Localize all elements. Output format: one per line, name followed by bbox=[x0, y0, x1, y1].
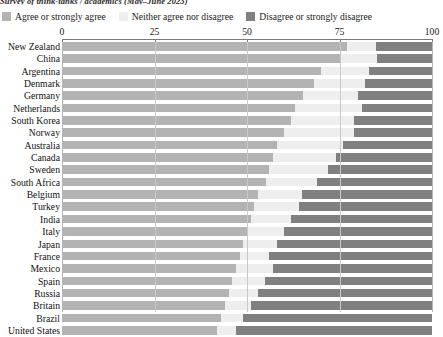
bar-row[interactable]: Mexico bbox=[0, 263, 443, 275]
bar-segment bbox=[284, 227, 432, 236]
gridline-100 bbox=[432, 41, 433, 312]
bar-row-label: South Africa bbox=[0, 177, 60, 189]
bar-rows: New ZealandChinaArgentinaDenmarkGermanyN… bbox=[0, 41, 443, 337]
bar-row-label: Japan bbox=[0, 239, 60, 251]
axis-tick-label-25: 25 bbox=[150, 26, 160, 38]
bar-segment bbox=[62, 190, 258, 199]
bar-segment bbox=[299, 202, 432, 211]
bar-segment bbox=[365, 79, 432, 88]
bar-segment bbox=[62, 277, 232, 286]
bar-segment bbox=[265, 277, 432, 286]
bar-segment bbox=[277, 240, 432, 249]
bar-row-label: India bbox=[0, 214, 60, 226]
bar-row[interactable]: Canada bbox=[0, 152, 443, 164]
bar-segment bbox=[236, 264, 273, 273]
bar-row-label: Mexico bbox=[0, 263, 60, 275]
bar-segment bbox=[243, 240, 276, 249]
stacked-bar[interactable] bbox=[62, 314, 432, 323]
bar-row[interactable]: Germany bbox=[0, 90, 443, 102]
stacked-bar[interactable] bbox=[62, 326, 432, 335]
bar-segment bbox=[62, 42, 347, 51]
bar-row[interactable]: South Africa bbox=[0, 177, 443, 189]
bar-row-label: Britain bbox=[0, 300, 60, 312]
axis-tick-label-100: 100 bbox=[425, 26, 439, 38]
bar-row[interactable]: China bbox=[0, 53, 443, 65]
bar-segment bbox=[232, 277, 265, 286]
bar-segment bbox=[295, 104, 362, 113]
axis-tick-mark-75 bbox=[340, 39, 341, 42]
bar-row-label: Sweden bbox=[0, 164, 60, 176]
bar-row[interactable]: Russia bbox=[0, 288, 443, 300]
bar-row-label: Denmark bbox=[0, 78, 60, 90]
bar-row-label: Russia bbox=[0, 288, 60, 300]
source-note: Survey of think-tanks / academics (May–J… bbox=[0, 0, 443, 5]
legend-label-disagree: Disagree or strongly disagree bbox=[259, 12, 372, 22]
bar-row-label: Norway bbox=[0, 127, 60, 139]
bar-segment bbox=[62, 289, 229, 298]
bar-segment bbox=[269, 252, 432, 261]
legend-swatch-agree-icon bbox=[2, 12, 11, 21]
legend-item-neither[interactable]: Neither agree nor disagree bbox=[119, 12, 233, 22]
axis-tick-label-50: 50 bbox=[242, 26, 252, 38]
gridline-0 bbox=[62, 41, 63, 312]
bar-row[interactable]: Australia bbox=[0, 140, 443, 152]
bar-segment bbox=[243, 314, 432, 323]
bar-row[interactable]: Italy bbox=[0, 226, 443, 238]
bar-segment bbox=[354, 116, 432, 125]
bar-row[interactable]: Britain bbox=[0, 300, 443, 312]
bar-row[interactable]: Turkey bbox=[0, 201, 443, 213]
bar-row[interactable]: New Zealand bbox=[0, 41, 443, 53]
legend-item-disagree[interactable]: Disagree or strongly disagree bbox=[246, 12, 372, 22]
bar-segment bbox=[284, 128, 354, 137]
bar-row[interactable]: Brazil bbox=[0, 313, 443, 325]
bar-segment bbox=[336, 153, 432, 162]
bar-row[interactable]: Sweden bbox=[0, 164, 443, 176]
bar-segment bbox=[369, 67, 432, 76]
bar-segment bbox=[62, 79, 314, 88]
bar-row-label: New Zealand bbox=[0, 41, 60, 53]
bar-row[interactable]: Spain bbox=[0, 276, 443, 288]
bar-segment bbox=[343, 141, 432, 150]
bar-row[interactable]: Belgium bbox=[0, 189, 443, 201]
bar-segment bbox=[258, 289, 432, 298]
x-axis-tick-labels: 0255075100 bbox=[0, 26, 443, 38]
bar-segment bbox=[347, 42, 377, 51]
axis-tick-mark-100 bbox=[432, 39, 433, 42]
legend-item-agree[interactable]: Agree or strongly agree bbox=[2, 12, 106, 22]
legend-swatch-disagree-icon bbox=[246, 12, 255, 21]
bar-segment bbox=[273, 264, 432, 273]
bar-segment bbox=[362, 104, 432, 113]
bar-row-label: Spain bbox=[0, 276, 60, 288]
bar-row[interactable]: Denmark bbox=[0, 78, 443, 90]
chart-legend: Agree or strongly agree Neither agree no… bbox=[2, 10, 443, 23]
bar-row[interactable]: Netherlands bbox=[0, 103, 443, 115]
bar-segment bbox=[247, 227, 284, 236]
bar-segment bbox=[62, 314, 221, 323]
bar-segment bbox=[62, 116, 291, 125]
gridline-25 bbox=[155, 41, 156, 312]
bar-segment bbox=[62, 326, 217, 335]
bar-row[interactable]: United States bbox=[0, 325, 443, 337]
bar-row-label: Belgium bbox=[0, 189, 60, 201]
bar-row[interactable]: Norway bbox=[0, 127, 443, 139]
bar-row[interactable]: India bbox=[0, 214, 443, 226]
bar-segment bbox=[62, 67, 321, 76]
bar-row-label: Turkey bbox=[0, 201, 60, 213]
bar-segment bbox=[62, 141, 277, 150]
bar-segment bbox=[251, 215, 292, 224]
bar-row[interactable]: Japan bbox=[0, 239, 443, 251]
bar-segment bbox=[62, 240, 243, 249]
bar-segment bbox=[302, 190, 432, 199]
bar-segment bbox=[217, 326, 236, 335]
bar-row-label: Australia bbox=[0, 140, 60, 152]
bar-segment bbox=[266, 178, 318, 187]
bar-row[interactable]: South Korea bbox=[0, 115, 443, 127]
bar-segment bbox=[269, 165, 328, 174]
bar-segment bbox=[354, 128, 432, 137]
plot-area: New ZealandChinaArgentinaDenmarkGermanyN… bbox=[0, 41, 443, 313]
bar-segment bbox=[229, 289, 259, 298]
bar-row[interactable]: France bbox=[0, 251, 443, 263]
bar-row-label: Brazil bbox=[0, 313, 60, 325]
bar-row[interactable]: Argentina bbox=[0, 66, 443, 78]
